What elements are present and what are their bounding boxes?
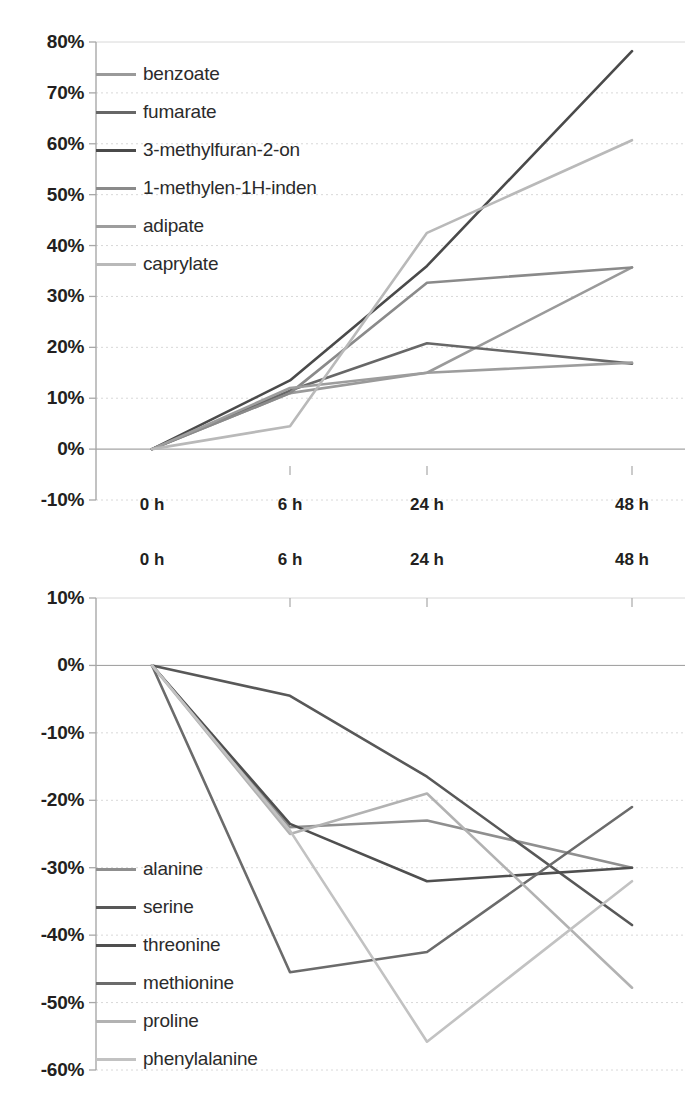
legend-label: proline [143,1010,199,1032]
legend-item: benzoate [96,55,317,93]
legend-swatch-icon [96,1058,136,1061]
legend-swatch-icon [96,111,136,114]
legend-swatch-icon [96,944,136,947]
x-axis-tick-label: 48 h [615,495,649,515]
legend-item: 1-methylen-1H-inden [96,169,317,207]
legend-label: threonine [143,934,220,956]
y-axis-tick-label: 50% [0,184,84,206]
legend-swatch-icon [96,1020,136,1023]
y-axis-tick-label: -20% [0,789,84,811]
legend-label: fumarate [143,101,216,123]
y-axis-tick-label: 0% [0,654,84,676]
y-axis-tick-label: 80% [0,31,84,53]
legend-item: 3-methylfuran-2-on [96,131,317,169]
bottom-chart-legend: alanineserinethreoninemethionineprolinep… [96,850,258,1078]
legend-label: benzoate [143,63,220,85]
legend-label: 3-methylfuran-2-on [143,139,300,161]
chart-amino-acids: 0 h6 h24 h48 h 10%0%-10%-20%-30%-40%-50%… [0,540,689,1105]
legend-item: threonine [96,926,258,964]
legend-item: fumarate [96,93,317,131]
series-line-alanine [152,665,632,867]
legend-item: adipate [96,207,317,245]
legend-label: methionine [143,972,234,994]
x-axis-tick-label: 48 h [615,550,649,570]
y-axis-tick-label: 10% [0,387,84,409]
x-axis-tick-label: 24 h [410,550,444,570]
chart-aroma-compounds: 80%70%60%50%40%30%20%10%0%-10% 0 h6 h24 … [0,0,689,540]
legend-item: alanine [96,850,258,888]
legend-swatch-icon [96,73,136,76]
legend-swatch-icon [96,906,136,909]
y-axis-tick-label: -50% [0,992,84,1014]
legend-label: phenylalanine [143,1048,258,1070]
legend-swatch-icon [96,263,136,266]
y-axis-tick-label: -10% [0,489,84,511]
legend-swatch-icon [96,225,136,228]
legend-label: adipate [143,215,204,237]
y-axis-tick-label: 10% [0,587,84,609]
legend-label: 1-methylen-1H-inden [143,177,317,199]
series-line-fumarate [152,343,632,449]
legend-label: serine [143,896,194,918]
x-axis-tick-label: 6 h [278,550,303,570]
y-axis-tick-label: 30% [0,285,84,307]
y-axis-tick-label: 70% [0,82,84,104]
legend-swatch-icon [96,982,136,985]
legend-item: serine [96,888,258,926]
legend-item: phenylalanine [96,1040,258,1078]
legend-item: caprylate [96,245,317,283]
legend-swatch-icon [96,149,136,152]
y-axis-tick-label: -40% [0,924,84,946]
x-axis-tick-label: 24 h [410,495,444,515]
y-axis-tick-label: 60% [0,133,84,155]
legend-swatch-icon [96,187,136,190]
legend-item: proline [96,1002,258,1040]
legend-label: caprylate [143,253,218,275]
x-axis-tick-label: 0 h [140,495,165,515]
y-axis-tick-label: -30% [0,857,84,879]
y-axis-tick-label: 0% [0,438,84,460]
top-chart-legend: benzoatefumarate3-methylfuran-2-on1-meth… [96,55,317,283]
legend-swatch-icon [96,868,136,871]
y-axis-tick-label: 40% [0,235,84,257]
legend-label: alanine [143,858,203,880]
y-axis-tick-label: -60% [0,1059,84,1081]
x-axis-tick-label: 0 h [140,550,165,570]
x-axis-tick-label: 6 h [278,495,303,515]
figure-page: 80%70%60%50%40%30%20%10%0%-10% 0 h6 h24 … [0,0,689,1105]
legend-item: methionine [96,964,258,1002]
y-axis-tick-label: -10% [0,722,84,744]
y-axis-tick-label: 20% [0,336,84,358]
series-line-threonine [152,665,632,881]
